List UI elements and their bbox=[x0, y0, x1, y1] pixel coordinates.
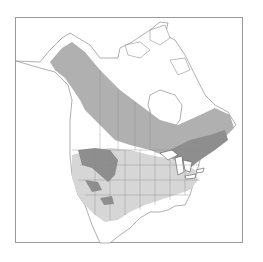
range-map bbox=[0, 0, 263, 262]
